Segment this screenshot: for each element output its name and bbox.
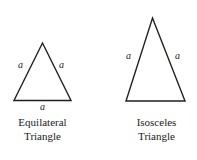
equilateral-side-label-base: a (40, 102, 45, 112)
equilateral-triangle-outline (14, 43, 71, 101)
geometry-figure: a a a a a Equilateral Triangle Isosceles… (0, 0, 197, 160)
isosceles-triangle-caption: Isosceles Triangle (121, 116, 192, 143)
equilateral-triangle-caption: Equilateral Triangle (7, 116, 78, 143)
isosceles-side-label-right: a (175, 51, 180, 61)
caption-line-2: Triangle (121, 130, 192, 144)
caption-line-1: Equilateral (7, 116, 78, 130)
isosceles-side-label-left: a (126, 51, 131, 61)
caption-line-2: Triangle (7, 130, 78, 144)
equilateral-side-label-right: a (59, 60, 64, 70)
equilateral-side-label-left: a (18, 60, 23, 70)
caption-line-1: Isosceles (121, 116, 192, 130)
